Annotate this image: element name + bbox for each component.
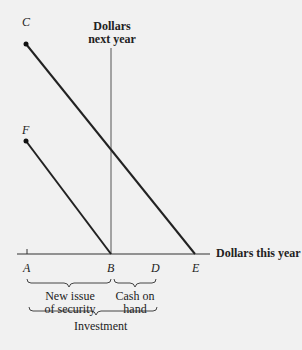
x-axis xyxy=(17,249,210,254)
point-c xyxy=(24,42,29,47)
label-d: D xyxy=(151,261,160,276)
brace-cash xyxy=(114,279,156,287)
label-a: A xyxy=(23,261,30,276)
label-f: F xyxy=(22,123,29,138)
label-c: C xyxy=(22,15,30,30)
brace-new-issue xyxy=(27,279,111,287)
new-issue-label: New issue of security xyxy=(40,290,100,316)
cash-line2: hand xyxy=(110,303,160,316)
label-e: E xyxy=(192,261,199,276)
new-issue-line2: of security xyxy=(40,303,100,316)
cash-on-hand-label: Cash on hand xyxy=(110,290,160,316)
investment-label: Investment xyxy=(74,319,127,334)
y-axis-label: Dollars next year xyxy=(86,20,138,46)
line-f-b xyxy=(26,141,111,254)
y-axis-label-line2: next year xyxy=(86,33,138,46)
x-axis-label: Dollars this year xyxy=(216,246,301,261)
point-f xyxy=(24,139,29,144)
label-b: B xyxy=(107,261,114,276)
